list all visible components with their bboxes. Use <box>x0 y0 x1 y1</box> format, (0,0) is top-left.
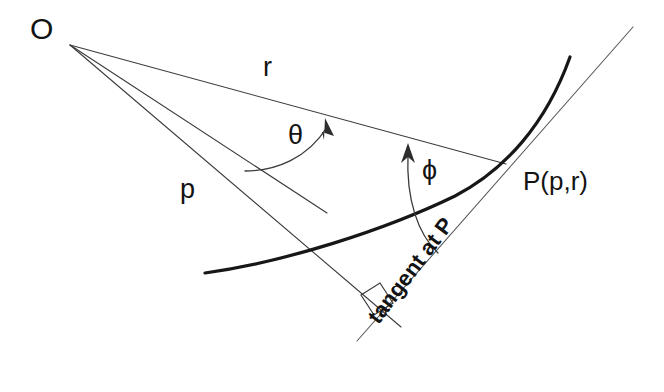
diagram-canvas: O r p θ ϕ P(p,r) tangent at P <box>0 0 664 392</box>
label-point-p: P(p,r) <box>523 168 588 194</box>
geometry-figure <box>0 0 664 392</box>
curve <box>205 57 570 273</box>
label-radius: r <box>263 54 272 81</box>
theta-arrow-head <box>322 118 334 140</box>
theta-arc <box>245 127 327 171</box>
label-perpendicular: p <box>180 176 195 203</box>
label-theta: θ <box>288 122 303 149</box>
label-origin: O <box>30 14 53 44</box>
label-phi: ϕ <box>422 157 437 184</box>
perpendicular-line <box>70 45 401 327</box>
